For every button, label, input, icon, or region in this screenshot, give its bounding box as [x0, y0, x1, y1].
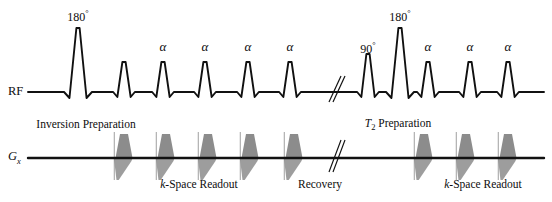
rf-pulse-label-rf-pulse-alpha-5: α [425, 40, 432, 53]
axis-label-gx: Gx [8, 150, 21, 165]
k-space-left-rest: -Space Readout [165, 178, 238, 190]
k-space-right-rest: -Space Readout [449, 178, 522, 190]
t2-prep-rest: Preparation [375, 117, 431, 129]
axis-label-gx-main: G [8, 149, 17, 163]
degree-sign-icon: ° [407, 8, 410, 18]
annotation-k-space-readout-left: k-Space Readout [160, 179, 238, 191]
pulse-sequence-figure: RF Gx 180°αααα90°180°ααα Inversion Prepa… [0, 0, 552, 202]
axis-label-rf: RF [8, 85, 23, 98]
annotation-t2-preparation: T2 Preparation [365, 118, 432, 132]
pulse-flip-angle: 90 [360, 42, 372, 56]
pulse-flip-angle: 180 [67, 10, 85, 24]
pulse-sequence-canvas [0, 0, 552, 202]
axis-label-gx-sub: x [17, 156, 21, 166]
annotation-recovery: Recovery [298, 179, 342, 191]
rf-pulse-label-rf-pulse-alpha-7: α [505, 40, 512, 53]
degree-sign-icon: ° [85, 8, 88, 18]
rf-pulse-label-rf-pulse-t2-90: 90° [360, 41, 375, 55]
rf-pulse-label-rf-pulse-t2-180: 180° [389, 9, 410, 23]
rf-pulse-label-rf-pulse-alpha-1: α [160, 40, 167, 53]
rf-pulse-label-rf-pulse-inv-180: 180° [67, 9, 88, 23]
rf-pulse-label-rf-pulse-alpha-2: α [202, 40, 209, 53]
annotation-inversion-preparation: Inversion Preparation [36, 119, 135, 131]
rf-pulse-label-rf-pulse-alpha-4: α [287, 40, 294, 53]
gx-trace [28, 132, 544, 180]
rf-pulse-label-rf-pulse-alpha-3: α [245, 40, 252, 53]
annotation-k-space-readout-right: k-Space Readout [444, 179, 522, 191]
degree-sign-icon: ° [372, 40, 375, 50]
pulse-flip-angle: 180 [389, 10, 407, 24]
rf-pulse-label-rf-pulse-alpha-6: α [467, 40, 474, 53]
